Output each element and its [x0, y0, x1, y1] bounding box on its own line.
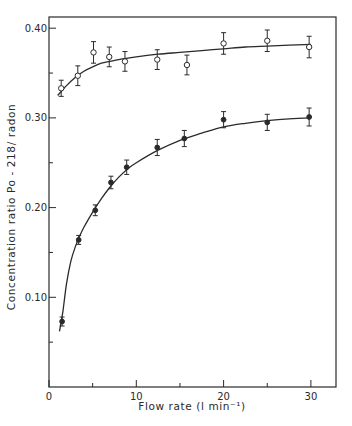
filled-circle-marker [93, 208, 98, 213]
fit-curves [58, 44, 311, 331]
filled-data-point [155, 139, 160, 155]
open-circle-marker [265, 38, 270, 43]
open-data-point [306, 36, 311, 58]
x-tick-label: 30 [305, 391, 318, 402]
filled-data-point [307, 108, 312, 126]
y-axis: 0.100.200.300.40 [25, 23, 56, 342]
x-tick-label: 0 [46, 391, 52, 402]
chart: 0102030 0.100.200.300.40 Flow rate (l mi… [0, 0, 352, 426]
open-data-point [107, 47, 112, 67]
plot-border [49, 17, 336, 387]
open-circle-marker [221, 41, 226, 46]
x-axis: 0102030 [46, 380, 317, 402]
open-circle-marker [91, 50, 96, 55]
open-data-point [75, 66, 80, 86]
open-circle-marker [155, 57, 160, 62]
open-data-point [265, 30, 270, 52]
filled-circle-marker [265, 120, 270, 125]
open-circle-marker [59, 86, 64, 91]
filled-circle-marker [60, 319, 65, 324]
y-tick-label: 0.30 [25, 112, 47, 123]
filled-circle-marker [155, 145, 160, 150]
plot-frame [49, 17, 336, 387]
open-circle-marker [122, 59, 127, 64]
filled-circle-marker [109, 180, 114, 185]
y-tick-label: 0.20 [25, 202, 47, 213]
open-data-point [221, 33, 226, 55]
open-circle-marker [107, 54, 112, 59]
filled-data-point [124, 160, 129, 174]
filled-series-fit-curve [60, 118, 311, 332]
open-circle-marker [75, 73, 80, 78]
filled-circle-marker [221, 117, 226, 122]
filled-data-point [265, 114, 270, 130]
open-data-point [122, 52, 127, 72]
y-tick-label: 0.40 [25, 23, 47, 34]
filled-circle-marker [307, 115, 312, 120]
open-data-point [184, 55, 189, 75]
filled-data-point [108, 176, 113, 189]
filled-circle-marker [182, 136, 187, 141]
filled-data-point [93, 205, 98, 216]
data-points [59, 30, 312, 326]
open-data-point [91, 42, 96, 64]
open-circle-marker [184, 62, 189, 67]
filled-circle-marker [76, 237, 81, 242]
filled-circle-marker [124, 165, 129, 170]
open-circle-marker [306, 44, 311, 49]
filled-data-point [221, 112, 226, 128]
x-axis-title: Flow rate (l min⁻¹) [138, 400, 245, 412]
y-tick-label: 0.10 [25, 292, 47, 303]
filled-data-point [182, 130, 187, 146]
y-axis-title: Concentration ratio Po - 218/ radon [5, 104, 17, 310]
open-data-point [155, 50, 160, 70]
